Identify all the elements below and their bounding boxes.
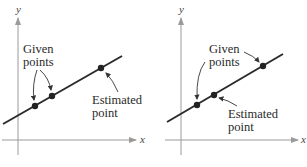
given-point-1 [32,103,38,109]
right-panel: y x Given points Estimated point [165,3,306,155]
estimated-label-line1: Estimated [228,107,279,121]
estimated-point [211,92,217,98]
given-label-line2: points [209,55,240,69]
given-arrow-1 [33,70,37,100]
x-axis-label: x [300,133,306,145]
given-arrow-2 [244,52,259,62]
estimated-arrow [106,73,118,92]
left-panel: y x Given points Estimated point [2,3,145,155]
estimated-point [98,65,104,71]
y-axis-label: y [178,3,184,15]
given-label-line1: Given [23,42,54,56]
estimated-arrow [219,98,237,106]
given-label-line2: points [23,55,54,69]
y-axis-label: y [15,3,21,15]
x-axis-label: x [139,133,145,145]
diagram-canvas: y x Given points Estimated point y x Giv… [0,0,307,167]
given-point-2 [260,63,266,69]
given-point-1 [194,102,200,108]
estimated-label-line1: Estimated [92,93,143,107]
given-arrow-2 [40,70,51,90]
given-arrow-1 [197,62,205,99]
estimated-label-line2: point [228,120,254,134]
estimated-label-line2: point [92,106,118,120]
given-label-line1: Given [209,42,240,56]
given-point-2 [49,93,55,99]
